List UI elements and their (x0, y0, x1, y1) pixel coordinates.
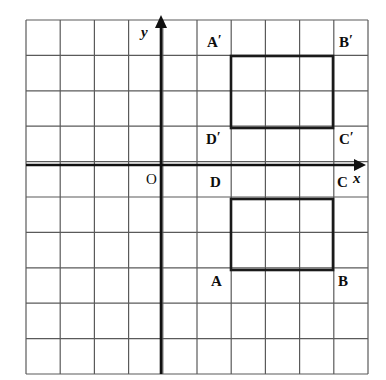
rectangle-image (231, 56, 333, 128)
vertex-label-A: A (211, 274, 222, 289)
vertex-label-A-prime: A′ (207, 35, 222, 50)
shape-outlines (231, 56, 333, 270)
coordinate-grid-figure (0, 0, 386, 380)
vertex-label-D-prime: D′ (206, 132, 221, 147)
vertex-label-C: C (337, 175, 348, 190)
vertex-label-D: D (210, 175, 221, 190)
figure-canvas: A′ B′ C′ D′ D C B A O x y (0, 0, 386, 380)
origin-label: O (146, 172, 157, 187)
grid-lines (26, 20, 368, 374)
rectangle-preimage (231, 199, 333, 270)
y-axis-label: y (141, 25, 148, 40)
axis-lines (26, 15, 366, 374)
x-axis-label: x (353, 171, 361, 186)
vertex-label-B-prime: B′ (339, 35, 353, 50)
vertex-label-B: B (338, 274, 348, 289)
y-axis-arrowhead (155, 15, 167, 28)
vertex-label-C-prime: C′ (339, 132, 354, 147)
